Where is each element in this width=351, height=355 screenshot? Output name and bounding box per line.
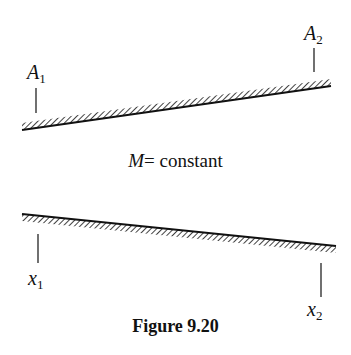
label-a1: A1 — [27, 62, 46, 85]
top-surface — [22, 79, 331, 130]
label-a2: A2 — [304, 23, 323, 46]
constant-annotation: M= constant — [0, 150, 351, 172]
diagram-canvas — [0, 0, 351, 355]
label-x1: x1 — [28, 268, 43, 291]
figure-caption: Figure 9.20 — [0, 316, 351, 337]
bottom-surface — [22, 214, 336, 253]
